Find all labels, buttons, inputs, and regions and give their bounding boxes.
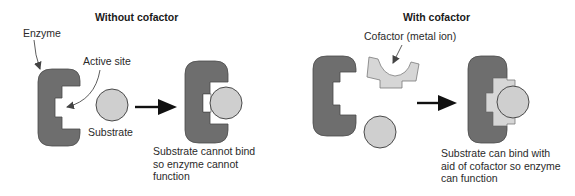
caption-line: Substrate cannot bind [153, 145, 255, 158]
substrate-circle-left-result [210, 87, 242, 119]
cofactor-shape [367, 57, 419, 88]
caption-line: can function [441, 172, 561, 185]
diagram-canvas: Without cofactor Enzyme Active site Subs… [0, 0, 575, 196]
active-site-label: Active site [83, 55, 131, 68]
cofactor-label: Cofactor (metal ion) [364, 30, 456, 43]
substrate-circle-left [96, 89, 128, 121]
enzyme-shape-right [313, 56, 356, 136]
substrate-circle-right [364, 116, 396, 148]
caption-line: so enzyme cannot [153, 158, 255, 171]
substrate-circle-right-result [497, 86, 529, 118]
reaction-arrowhead-right [438, 95, 457, 111]
reaction-arrowhead-left [158, 99, 177, 115]
enzyme-pointer-arrow [34, 40, 40, 69]
enzyme-label: Enzyme [23, 27, 61, 40]
caption-line: aid of cofactor so enzyme [441, 160, 561, 173]
caption-without-cofactor: Substrate cannot bind so enzyme cannot f… [153, 145, 255, 183]
panel-heading-with-cofactor: With cofactor [403, 11, 470, 23]
caption-with-cofactor: Substrate can bind with aid of cofactor … [441, 147, 561, 185]
panel-heading-without-cofactor: Without cofactor [95, 11, 178, 23]
caption-line: function [153, 170, 255, 183]
cofactor-pointer-arrow [393, 45, 402, 63]
caption-line: Substrate can bind with [441, 147, 561, 160]
substrate-label: Substrate [88, 126, 133, 139]
enzyme-shape-left [38, 69, 80, 146]
